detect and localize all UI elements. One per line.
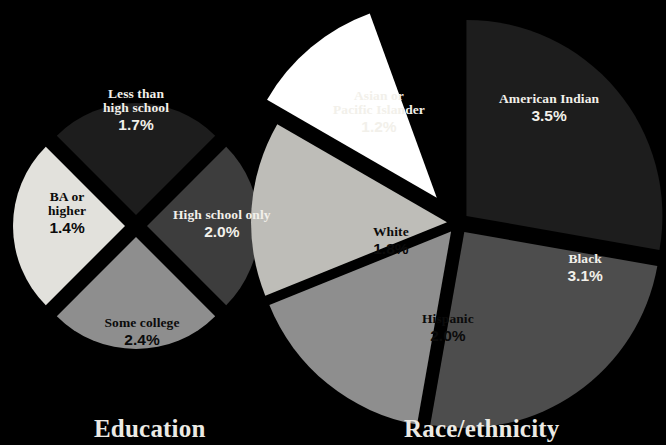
- pie-charts-canvas: [0, 0, 666, 445]
- panel-caption-education: Education: [94, 415, 206, 443]
- pie-slice-black[interactable]: [430, 232, 657, 428]
- pie-education: [13, 103, 259, 349]
- pie-slice-american-indian[interactable]: [466, 20, 662, 250]
- pie-race: [251, 14, 662, 428]
- panel-caption-race: Race/ethnicity: [404, 415, 560, 443]
- chart-figure: Less thanhigh school1.7%High school only…: [0, 0, 666, 445]
